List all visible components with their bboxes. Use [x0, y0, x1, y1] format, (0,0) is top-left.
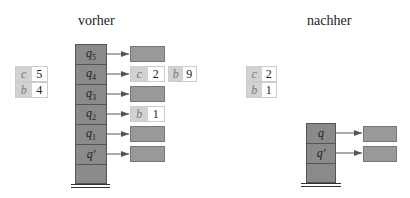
pointer-arrows: [0, 0, 410, 198]
